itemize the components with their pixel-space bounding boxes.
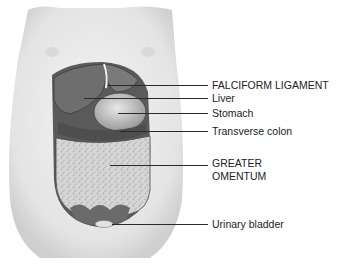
label-stomach: Stomach [212,107,253,119]
leader-stomach [118,113,208,114]
label-greater-omentum-line2: OMENTUM [212,170,266,182]
label-greater-omentum-line1: GREATER [212,157,262,169]
leader-liver [84,98,208,99]
urinary-bladder [95,221,113,228]
label-transverse-colon: Transverse colon [212,125,292,137]
greater-omentum [56,136,150,217]
leader-transverse-colon [120,131,208,132]
abdomen-illustration [0,0,350,267]
label-liver: Liver [212,92,235,104]
leader-falciform [108,85,208,86]
leader-greater-omentum [110,165,208,166]
label-urinary-bladder: Urinary bladder [212,218,284,230]
label-falciform-ligament: FALCIFORM LIGAMENT [212,79,329,91]
leader-urinary-bladder [112,224,208,225]
